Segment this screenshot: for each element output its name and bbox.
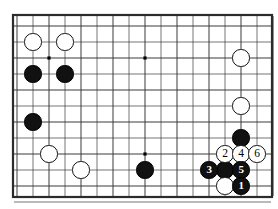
move-stone-1: 1 (232, 177, 249, 194)
black-stone (24, 113, 41, 130)
white-stone (56, 33, 73, 50)
white-stone (72, 161, 89, 178)
stone-number: 4 (238, 148, 243, 160)
stone-number: 3 (206, 164, 211, 175)
star-point (47, 56, 50, 59)
star-point (143, 56, 146, 59)
black-stone (216, 161, 233, 178)
star-point (143, 152, 146, 155)
stone-number: 5 (238, 164, 243, 175)
black-stone (136, 161, 153, 178)
black-stone (232, 129, 249, 146)
stone-number: 1 (238, 180, 243, 191)
move-stone-5: 5 (232, 161, 249, 178)
move-stone-2: 2 (216, 145, 233, 162)
stone-number: 2 (222, 148, 227, 160)
white-stone (232, 97, 249, 114)
move-stone-6: 6 (248, 145, 265, 162)
move-stone-3: 3 (200, 161, 217, 178)
white-stone (216, 177, 233, 194)
white-stone (40, 145, 57, 162)
black-stone (24, 65, 41, 82)
stone-number: 6 (254, 148, 259, 160)
move-stone-4: 4 (232, 145, 249, 162)
go-board-figure: 246351 Go board move sequence diagram (0, 0, 278, 209)
white-stone (24, 33, 41, 50)
white-stone (232, 49, 249, 66)
black-stone (56, 65, 73, 82)
